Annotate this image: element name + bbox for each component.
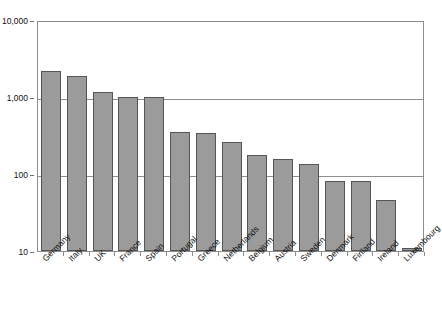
x-axis-tick-mark [166, 252, 167, 256]
x-axis-tick-mark [140, 252, 141, 256]
bar [196, 133, 216, 251]
y-axis-tick-label: 10 [19, 248, 28, 257]
y-axis-tick-mark [30, 98, 34, 99]
bar [118, 97, 138, 251]
x-axis-tick-mark [424, 252, 425, 256]
x-axis-tick-mark [398, 252, 399, 256]
x-axis-tick-mark [114, 252, 115, 256]
bar [222, 142, 242, 251]
x-axis-tick-mark [63, 252, 64, 256]
bar [67, 76, 87, 251]
x-axis-tick-mark [192, 252, 193, 256]
x-axis-tick-mark [218, 252, 219, 256]
y-axis-tick-mark [30, 21, 34, 22]
x-axis-tick-mark [347, 252, 348, 256]
y-axis-tick-label: 10,000 [2, 17, 28, 26]
x-axis-tick-mark [295, 252, 296, 256]
x-axis-tick-mark [89, 252, 90, 256]
x-axis-tick-mark [243, 252, 244, 256]
x-axis-tick-mark [269, 252, 270, 256]
y-axis: 101001,00010,000 [0, 0, 37, 260]
y-axis-tick-mark [30, 175, 34, 176]
y-axis-tick-label: 1,000 [7, 94, 28, 103]
y-axis-tick-label: 100 [14, 171, 28, 180]
y-axis-tick-mark [30, 252, 34, 253]
x-axis-tick-mark [372, 252, 373, 256]
bar [144, 97, 164, 251]
x-axis-tick-mark [321, 252, 322, 256]
bar [41, 71, 61, 251]
bar [93, 92, 113, 251]
bar [170, 132, 190, 251]
plot-area [37, 21, 424, 252]
